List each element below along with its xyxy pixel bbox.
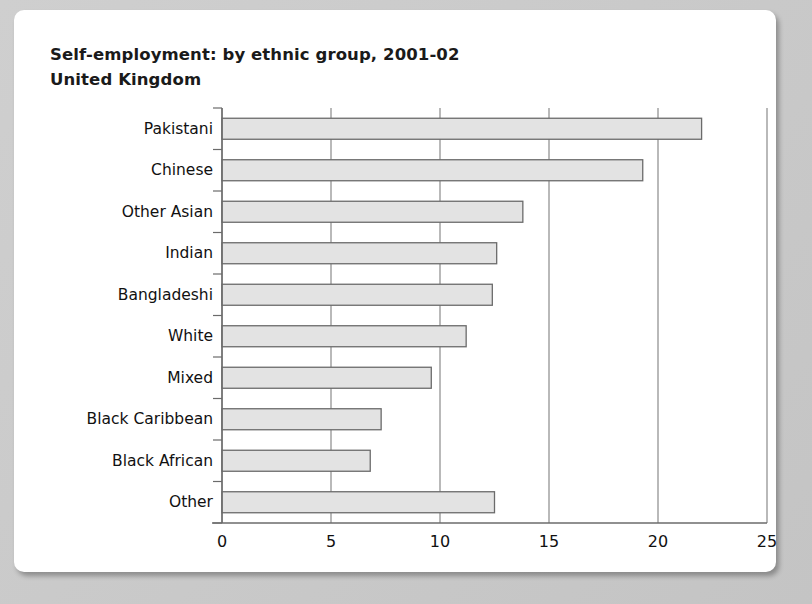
bar [222, 284, 492, 305]
bar [222, 326, 466, 347]
category-label: Other [169, 493, 213, 511]
category-label: Black African [112, 452, 213, 470]
bar [222, 367, 431, 388]
bar-chart: PakistaniChineseOther AsianIndianBanglad… [0, 0, 812, 604]
category-label: Mixed [167, 369, 213, 387]
x-tick-label: 5 [326, 532, 336, 551]
x-tick-label: 25 [757, 532, 777, 551]
category-label: Pakistani [144, 120, 213, 138]
bar [222, 243, 497, 264]
bar [222, 118, 702, 139]
category-label: Other Asian [122, 203, 213, 221]
category-label: Bangladeshi [118, 286, 213, 304]
bar [222, 492, 495, 513]
x-tick-label: 0 [217, 532, 227, 551]
category-label: Chinese [151, 161, 213, 179]
category-axis-labels: PakistaniChineseOther AsianIndianBanglad… [0, 0, 213, 604]
x-tick-label: 10 [430, 532, 450, 551]
category-label: White [168, 327, 213, 345]
bar [222, 160, 643, 181]
category-label: Black Caribbean [87, 410, 213, 428]
bar [222, 409, 381, 430]
category-label: Indian [165, 244, 213, 262]
bar [222, 450, 370, 471]
bar [222, 201, 523, 222]
screenshot-root: Self-employment: by ethnic group, 2001-0… [0, 0, 812, 604]
x-tick-label: 20 [648, 532, 668, 551]
x-tick-label: 15 [539, 532, 559, 551]
